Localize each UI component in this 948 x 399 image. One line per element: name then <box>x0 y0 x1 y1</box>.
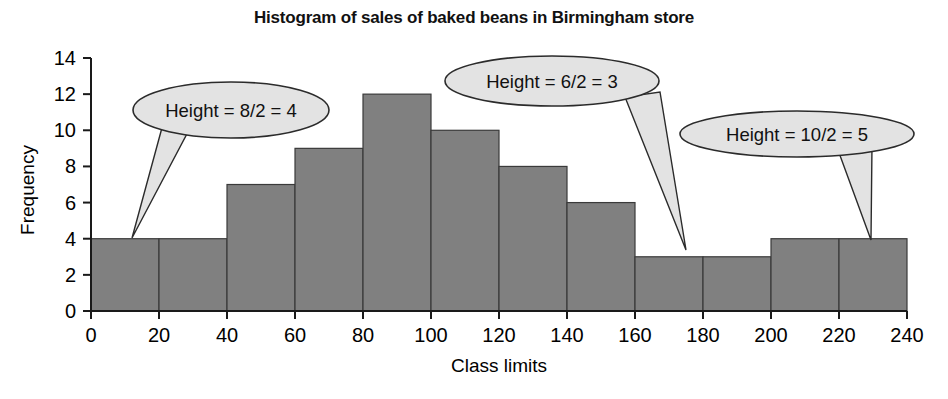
callout-height-10-2-5: Height = 10/2 = 5 <box>680 111 914 240</box>
x-tick-label: 80 <box>352 324 374 346</box>
y-tick-label: 8 <box>65 155 76 177</box>
x-tick-label: 0 <box>85 324 96 346</box>
histogram-bar <box>295 148 363 311</box>
callout-tail <box>838 145 872 240</box>
callout-label: Height = 6/2 = 3 <box>486 71 618 92</box>
y-tick-label: 14 <box>54 47 76 69</box>
y-tick-label: 10 <box>54 119 76 141</box>
histogram-bar <box>703 257 771 311</box>
callout-label: Height = 10/2 = 5 <box>726 124 868 145</box>
y-tick-label: 6 <box>65 192 76 214</box>
histogram-bar <box>771 239 839 311</box>
callout-tail <box>132 124 190 238</box>
histogram-bar <box>227 185 295 312</box>
histogram-bar <box>499 166 567 311</box>
histogram-plot: 02468101214 0204060801001201401601802002… <box>0 0 948 399</box>
y-tick-label: 0 <box>65 300 76 322</box>
histogram-bar <box>91 239 159 311</box>
y-tick-label: 4 <box>65 228 76 250</box>
callout-label: Height = 8/2 = 4 <box>165 100 297 121</box>
histogram-bar <box>431 130 499 311</box>
x-tick-label: 100 <box>414 324 447 346</box>
x-tick-label: 140 <box>550 324 583 346</box>
x-tick-label: 180 <box>686 324 719 346</box>
y-axis-title: Frequency <box>17 145 38 235</box>
y-axis-ticks: 02468101214 <box>54 47 91 322</box>
x-tick-label: 160 <box>618 324 651 346</box>
x-tick-label: 20 <box>148 324 170 346</box>
x-axis-title: Class limits <box>451 355 547 376</box>
x-axis-ticks: 020406080100120140160180200220240 <box>85 311 923 346</box>
x-tick-label: 220 <box>822 324 855 346</box>
histogram-bar <box>567 203 635 311</box>
x-tick-label: 60 <box>284 324 306 346</box>
x-tick-label: 120 <box>482 324 515 346</box>
y-tick-label: 2 <box>65 264 76 286</box>
y-tick-label: 12 <box>54 83 76 105</box>
histogram-bar <box>635 257 703 311</box>
histogram-figure: Histogram of sales of baked beans in Bir… <box>0 0 948 399</box>
histogram-bar <box>839 239 907 311</box>
histogram-bar <box>363 94 431 311</box>
histogram-bar <box>159 239 227 311</box>
x-tick-label: 200 <box>754 324 787 346</box>
x-tick-label: 40 <box>216 324 238 346</box>
x-tick-label: 240 <box>890 324 923 346</box>
